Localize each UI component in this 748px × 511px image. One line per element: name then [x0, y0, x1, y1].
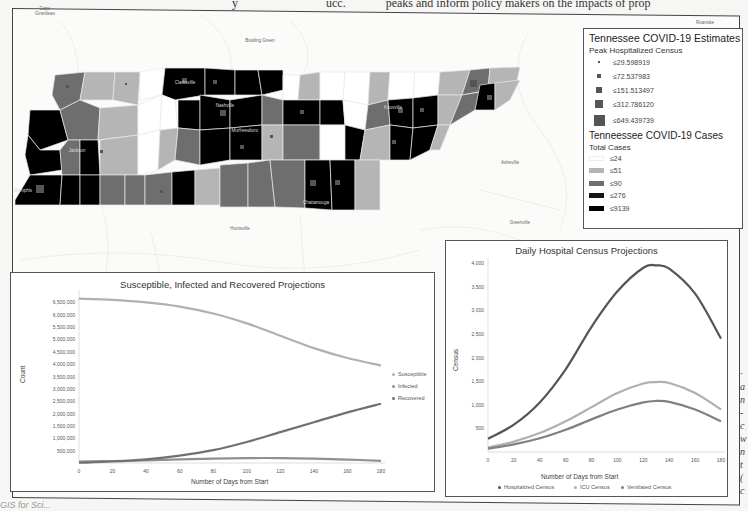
y-tick-label: 5,500,000: [35, 324, 75, 330]
color-swatch-icon: [589, 206, 604, 211]
place-label-cape-girardeau: Cape Girardeau: [30, 6, 60, 16]
place-label-knoxville: Knoxville: [378, 105, 408, 110]
x-tick-label: 40: [530, 457, 550, 463]
y-tick-label: 2,000: [444, 355, 484, 361]
y-tick-label: 500: [444, 425, 484, 431]
y-tick-label: 3,500: [444, 284, 484, 290]
sir-legend-item: Infected: [392, 383, 418, 389]
y-tick-label: 3,000: [444, 307, 484, 313]
hospital-census-chart: Daily Hospital Census Projections Census…: [445, 240, 728, 497]
legend-dot-icon: [621, 486, 624, 489]
legend-census-label: ≤151.513497: [613, 87, 654, 94]
square-marker-icon: [596, 87, 602, 93]
sir-chart: Susceptible, Infected and Recovered Proj…: [10, 272, 435, 492]
place-label-greenville: Greenville: [505, 220, 535, 225]
legend-dot-icon: [392, 385, 395, 388]
legend-census-class: ≤649.439739: [589, 111, 737, 129]
color-swatch-icon: [589, 168, 604, 173]
legend-case-class: ≤9139: [589, 202, 737, 215]
side-text-fragment: (: [740, 472, 743, 483]
side-text-fragment: t: [740, 459, 743, 470]
y-tick-label: 500,000: [35, 448, 75, 454]
hospital-legend-item: ICU Census: [574, 484, 610, 490]
y-tick-label: 4,500,000: [35, 349, 75, 355]
sir-legend-item: Recovered: [392, 395, 425, 401]
legend-census-label: ≤72.537983: [613, 73, 650, 80]
legend-census-class: ≤312.786120: [589, 97, 737, 111]
legend-census-class: ≤72.537983: [589, 69, 737, 83]
y-tick-label: 2,500: [444, 331, 484, 337]
y-tick-label: 6,000,000: [35, 312, 75, 318]
y-tick-label: 1,000: [444, 402, 484, 408]
chart-axes: [79, 290, 385, 463]
place-label-memphis: Memphis: [8, 188, 38, 193]
y-tick-label: 1,500,000: [35, 423, 75, 429]
y-tick-label: 3,500,000: [35, 374, 75, 380]
sir-y-axis-label: Count: [19, 366, 26, 383]
side-text-fragment: w: [740, 433, 747, 444]
x-tick-label: 20: [103, 468, 123, 474]
legend-case-label: ≤90: [610, 180, 622, 187]
series-line: [79, 299, 381, 366]
y-tick-label: 2,000,000: [35, 411, 75, 417]
color-swatch-icon: [589, 193, 604, 198]
series-line: [79, 404, 381, 463]
place-label-chattanooga: Chattanooga: [296, 200, 336, 205]
x-tick-label: 120: [633, 457, 653, 463]
y-tick-label: 4,000: [444, 260, 484, 266]
sir-chart-plot: [11, 273, 436, 493]
square-marker-icon: [595, 100, 603, 108]
place-label-bowling-green: Bowling Green: [245, 38, 275, 43]
legend-census-label: ≤649.439739: [613, 117, 654, 124]
side-text-fragment: a: [740, 381, 745, 392]
series-line: [488, 401, 721, 449]
map-legend: Tennessee COVID-19 Estimates Peak Hospit…: [583, 28, 743, 229]
place-label-asheville: Asheville: [495, 160, 525, 165]
legend-case-label: ≤276: [610, 192, 626, 199]
side-text-fragment: ·: [740, 368, 743, 379]
legend-census-label: ≤312.786120: [613, 101, 654, 108]
y-tick-label: 4,000,000: [35, 361, 75, 367]
y-tick-label: 6,500,000: [35, 299, 75, 305]
series-line: [488, 265, 721, 439]
counties: [15, 67, 520, 210]
side-text-fragment: c: [740, 420, 744, 431]
legend-title: Tennessee COVID-19 Estimates: [589, 32, 737, 44]
square-marker-icon: [598, 61, 600, 63]
x-tick-label: 140: [304, 468, 324, 474]
place-label-roanoke: Roanoke: [690, 20, 720, 25]
x-tick-label: 100: [237, 468, 257, 474]
side-text-fragment: -: [740, 407, 743, 418]
square-marker-icon: [594, 115, 605, 126]
legend-subtitle-census: Peak Hospitalized Census: [589, 46, 737, 55]
place-label-clarksville: Clarksville: [170, 80, 200, 85]
legend-dot-icon: [392, 397, 395, 400]
x-tick-label: 180: [371, 468, 391, 474]
y-tick-label: 3,000,000: [35, 386, 75, 392]
x-tick-label: 20: [504, 457, 524, 463]
place-label-jackson: Jackson: [62, 148, 92, 153]
place-label-huntsville: Huntsville: [225, 226, 255, 231]
color-swatch-icon: [589, 156, 604, 161]
legend-case-class: ≤276: [589, 190, 737, 203]
x-tick-label: 80: [582, 457, 602, 463]
legend-title-cases: Tenneessee COVID-19 Cases: [589, 130, 737, 141]
place-label-murfreesboro: Murfreesboro: [225, 128, 265, 133]
legend-dot-icon: [498, 486, 501, 489]
legend-case-class: ≤24: [589, 152, 737, 165]
sir-legend-item: Susceptible: [392, 371, 426, 377]
x-tick-label: 100: [607, 457, 627, 463]
hospital-x-axis-label: Number of Days from Start: [541, 473, 618, 480]
legend-case-class: ≤90: [589, 177, 737, 190]
x-tick-label: 160: [685, 457, 705, 463]
legend-case-class: ≤51: [589, 165, 737, 178]
legend-census-label: ≤29.598919: [613, 59, 650, 66]
legend-census-class: ≤151.513497: [589, 83, 737, 97]
sir-x-axis-label: Number of Days from Start: [191, 478, 268, 485]
y-tick-label: 1,000,000: [35, 435, 75, 441]
legend-dot-icon: [574, 486, 577, 489]
legend-case-label: ≤24: [610, 155, 622, 162]
x-tick-label: 0: [69, 468, 89, 474]
legend-subtitle-cases: Total Cases: [589, 143, 737, 152]
legend-dot-icon: [392, 373, 395, 376]
